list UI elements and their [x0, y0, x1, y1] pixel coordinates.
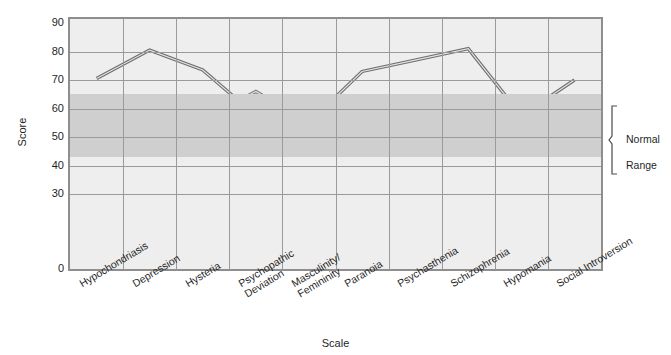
x-tick-1: Depression — [130, 252, 182, 290]
x-tick-9: Social Introversion — [554, 235, 634, 290]
normal-range-label: Normal Range — [626, 120, 660, 172]
x-tick-5: Paranoia — [342, 257, 384, 289]
x-axis-title: Scale — [0, 337, 671, 349]
x-axis-tick-labels: HypochondriasisDepressionHysteriaPsychop… — [0, 0, 671, 355]
x-tick-2: Hysteria — [183, 259, 222, 289]
mmpi-profile-chart: 908070605040300 Score HypochondriasisDep… — [0, 0, 671, 355]
normal-range-line1: Normal — [626, 133, 660, 145]
brace-icon — [608, 105, 620, 175]
x-tick-8: Hypomania — [501, 252, 553, 290]
normal-range-annotation: Normal Range — [608, 105, 671, 175]
x-tick-3: Psychopathic Deviation — [236, 247, 302, 300]
normal-range-line2: Range — [626, 159, 657, 171]
x-tick-4: Masculinity/ Femininity — [289, 251, 348, 300]
